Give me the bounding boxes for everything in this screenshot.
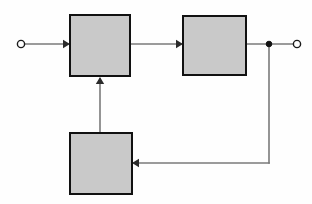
wire-block1-to-block2-arrowhead xyxy=(176,40,183,48)
wire-feedback-up-to-block1-arrowhead xyxy=(96,77,104,84)
block-feedback[interactable] xyxy=(70,133,132,194)
block-forward-1[interactable] xyxy=(70,15,130,76)
block-diagram-svg xyxy=(0,0,312,204)
wire-input-to-block1-arrowhead xyxy=(63,40,70,48)
input-terminal[interactable] xyxy=(17,40,24,47)
output-tap-junction xyxy=(266,41,272,47)
block-forward-2[interactable] xyxy=(183,16,246,75)
output-terminal[interactable] xyxy=(293,40,300,47)
wire-feedback-horizontal-arrowhead xyxy=(132,159,139,167)
block-diagram-canvas xyxy=(0,0,312,204)
